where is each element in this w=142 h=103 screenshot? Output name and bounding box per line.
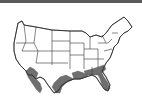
map-svg [0,3,142,103]
us-range-map [0,3,142,103]
